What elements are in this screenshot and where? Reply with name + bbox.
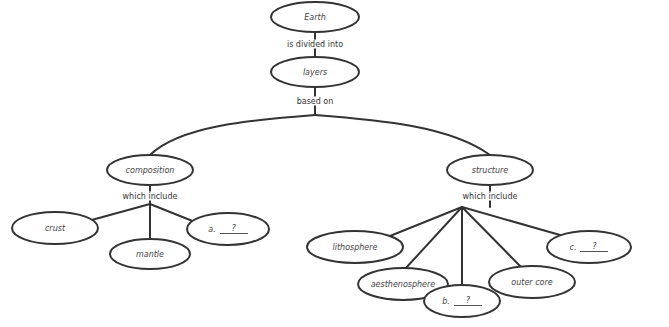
- answer-blank-b[interactable]: ?: [454, 296, 482, 306]
- node-outer-core: outer core: [489, 266, 575, 298]
- node-c-blank: c.?: [547, 231, 631, 263]
- node-label: outer core: [511, 278, 552, 287]
- node-label: composition: [126, 166, 175, 175]
- node-structure: structure: [447, 155, 533, 185]
- node-prefix: c.: [570, 243, 577, 252]
- node-lithosphere: lithosphere: [307, 231, 403, 263]
- node-earth: Earth: [271, 2, 359, 32]
- node-label: lithosphere: [333, 243, 378, 252]
- node-label: mantle: [136, 250, 164, 259]
- node-a-blank: a.?: [187, 213, 269, 245]
- answer-blank-a[interactable]: ?: [220, 224, 248, 234]
- node-label: layers: [303, 68, 327, 77]
- node-prefix: b.: [442, 297, 450, 306]
- node-composition: composition: [107, 155, 193, 185]
- node-crust: crust: [12, 212, 98, 244]
- link-label-earth-layers: is divided into: [286, 40, 344, 49]
- node-prefix: a.: [208, 225, 215, 234]
- node-layers: layers: [271, 57, 359, 87]
- answer-blank-c[interactable]: ?: [580, 242, 608, 252]
- node-label: Earth: [304, 13, 325, 22]
- node-mantle: mantle: [110, 239, 190, 269]
- link-label-based-on: based on: [296, 97, 335, 106]
- node-label: structure: [472, 166, 508, 175]
- link-label-composition-children: which include: [122, 192, 179, 201]
- link-label-structure-children: which include: [462, 192, 519, 201]
- node-label: crust: [45, 224, 65, 233]
